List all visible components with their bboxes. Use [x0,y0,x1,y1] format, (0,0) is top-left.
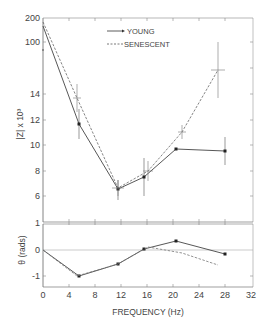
legend-senescent: SENESCENT [124,40,170,49]
legend-young: YOUNG [127,27,155,36]
x-tick-0: 0 [40,290,45,300]
x-tick-28: 28 [220,290,230,300]
y-tick-6: 6 [35,191,40,201]
y-tick-1: 1 [35,218,40,228]
y-tick-0: 0 [35,245,40,255]
y-axis-title-phase: θ (rads) [17,235,27,264]
y-tick-12: 12 [30,115,40,125]
x-tick-8: 8 [92,290,97,300]
y-tick-10: 10 [30,140,40,150]
series-young-magnitude [43,26,227,200]
x-tick-32: 32 [246,290,256,300]
y-axis-title-magnitude: |Z| x 10³ [15,108,25,139]
x-tick-24: 24 [194,290,204,300]
y-tick-14: 14 [30,89,40,99]
legend: YOUNG SENESCENT [107,27,170,49]
y-tick-100: 100 [25,37,40,47]
x-tick-16: 16 [142,290,152,300]
series-senescent-phase [43,247,218,276]
impedance-chart: 200 100 14 12 10 8 6 |Z| x 10³ YOUNG SEN… [0,0,270,328]
x-tick-12: 12 [116,290,126,300]
x-tick-20: 20 [168,290,178,300]
phase-plot: 1 0 -1 θ (rads) [17,218,253,287]
y-tick-8: 8 [35,166,40,176]
y-tick-neg1: -1 [32,271,40,281]
y-tick-200: 200 [25,13,40,23]
x-axis-title: FREQUENCY (Hz) [112,307,184,317]
magnitude-plot: 200 100 14 12 10 8 6 |Z| x 10³ YOUNG SEN… [15,13,253,225]
x-tick-4: 4 [66,290,71,300]
x-axis: 0 4 8 12 16 20 24 28 32 FREQUENCY (Hz) [40,290,256,317]
